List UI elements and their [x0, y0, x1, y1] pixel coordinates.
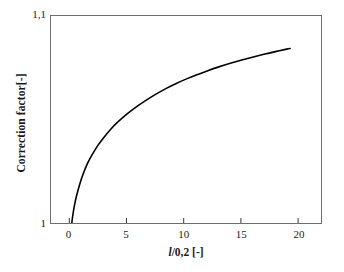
chart-figure: Correction factor[-] 1,1 1 05101520 l/0,… — [0, 0, 344, 272]
x-axis-tick-label: 5 — [123, 228, 129, 240]
data-curve — [72, 48, 290, 223]
x-axis-title: l/0,2 [-] — [50, 246, 322, 258]
x-axis-tick-label: 20 — [293, 228, 304, 240]
x-axis-tick-label: 15 — [236, 228, 247, 240]
y-axis-tick-label-top: 1,1 — [0, 9, 46, 20]
plot-area — [50, 15, 322, 224]
plot-canvas — [51, 16, 321, 223]
x-axis-tick-label: 10 — [178, 228, 189, 240]
x-axis-title-rest: /0,2 [-] — [172, 246, 204, 258]
y-axis-tick-label-bottom: 1 — [0, 218, 46, 229]
x-axis-tick-marks — [69, 218, 298, 223]
x-axis-tick-labels: 05101520 — [50, 228, 322, 242]
x-axis-tick-label: 0 — [66, 228, 72, 240]
y-axis-title: Correction factor[-] — [12, 18, 30, 228]
